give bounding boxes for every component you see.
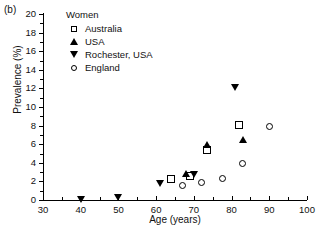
y-tick-major bbox=[39, 107, 43, 108]
legend-item-australia: Australia bbox=[66, 22, 153, 35]
y-tick-minor bbox=[40, 61, 43, 62]
y-tick-label: 12 bbox=[14, 82, 36, 93]
data-point bbox=[179, 182, 186, 189]
y-tick-minor bbox=[40, 79, 43, 80]
x-tick-minor bbox=[250, 197, 251, 200]
x-tick-label: 100 bbox=[295, 204, 319, 215]
x-tick-minor bbox=[288, 197, 289, 200]
legend-items: AustraliaUSARochester, USAEngland bbox=[66, 22, 153, 74]
y-tick-major bbox=[39, 163, 43, 164]
x-tick-label: 50 bbox=[106, 204, 130, 215]
x-tick-major bbox=[307, 196, 308, 200]
x-axis-label: Age (years) bbox=[43, 214, 307, 225]
y-tick-label: 14 bbox=[14, 64, 36, 75]
data-point bbox=[231, 84, 239, 91]
y-tick-minor bbox=[40, 98, 43, 99]
legend-item-rochester-usa: Rochester, USA bbox=[66, 48, 153, 61]
y-tick-major bbox=[39, 126, 43, 127]
data-point bbox=[156, 180, 164, 187]
y-tick-minor bbox=[40, 172, 43, 173]
x-tick-label: 60 bbox=[144, 204, 168, 215]
legend: Women AustraliaUSARochester, USAEngland bbox=[66, 8, 153, 74]
y-tick-major bbox=[39, 200, 43, 201]
y-tick-label: 20 bbox=[14, 8, 36, 19]
legend-title: Women bbox=[66, 8, 153, 21]
x-tick-major bbox=[232, 196, 233, 200]
y-tick-label: 16 bbox=[14, 45, 36, 56]
y-tick-minor bbox=[40, 42, 43, 43]
legend-item-label: England bbox=[82, 61, 120, 74]
legend-item-usa: USA bbox=[66, 35, 153, 48]
open-square-icon bbox=[66, 26, 82, 32]
data-point bbox=[167, 175, 175, 183]
data-point bbox=[198, 179, 205, 186]
y-tick-label: 6 bbox=[14, 138, 36, 149]
data-point bbox=[239, 160, 246, 167]
open-circle-icon bbox=[66, 65, 82, 71]
x-tick-label: 30 bbox=[31, 204, 55, 215]
y-tick-minor bbox=[40, 116, 43, 117]
y-tick-label: 18 bbox=[14, 27, 36, 38]
data-point bbox=[239, 136, 247, 143]
y-tick-label: 2 bbox=[14, 175, 36, 186]
y-tick-major bbox=[39, 70, 43, 71]
x-tick-major bbox=[43, 196, 44, 200]
x-tick-minor bbox=[62, 197, 63, 200]
y-tick-label: 4 bbox=[14, 157, 36, 168]
x-tick-minor bbox=[175, 197, 176, 200]
y-tick-major bbox=[39, 14, 43, 15]
y-tick-minor bbox=[40, 23, 43, 24]
legend-item-label: Australia bbox=[82, 22, 122, 35]
y-tick-minor bbox=[40, 135, 43, 136]
x-tick-label: 40 bbox=[69, 204, 93, 215]
y-tick-major bbox=[39, 181, 43, 182]
y-tick-major bbox=[39, 88, 43, 89]
x-tick-label: 90 bbox=[257, 204, 281, 215]
y-tick-major bbox=[39, 144, 43, 145]
x-tick-label: 70 bbox=[182, 204, 206, 215]
data-point bbox=[203, 141, 211, 148]
filled-triangle-up-icon bbox=[66, 38, 82, 45]
x-tick-minor bbox=[100, 197, 101, 200]
y-tick-minor bbox=[40, 154, 43, 155]
data-point bbox=[77, 196, 85, 203]
x-tick-label: 80 bbox=[220, 204, 244, 215]
data-point bbox=[190, 171, 198, 178]
y-tick-label: 10 bbox=[14, 101, 36, 112]
data-point bbox=[266, 123, 273, 130]
x-tick-major bbox=[156, 196, 157, 200]
filled-triangle-down-icon bbox=[66, 51, 82, 58]
y-tick-major bbox=[39, 33, 43, 34]
data-point bbox=[235, 121, 243, 129]
data-point bbox=[219, 175, 226, 182]
y-tick-label: 8 bbox=[14, 120, 36, 131]
x-tick-major bbox=[269, 196, 270, 200]
legend-item-label: USA bbox=[82, 35, 105, 48]
y-axis-line bbox=[43, 13, 44, 201]
legend-item-england: England bbox=[66, 61, 153, 74]
y-tick-minor bbox=[40, 191, 43, 192]
x-tick-minor bbox=[137, 197, 138, 200]
legend-item-label: Rochester, USA bbox=[82, 48, 153, 61]
x-tick-minor bbox=[213, 197, 214, 200]
y-tick-major bbox=[39, 51, 43, 52]
data-point bbox=[114, 194, 122, 201]
figure-panel-b: (b) Prevalence (%) Age (years) 024681012… bbox=[0, 0, 319, 232]
x-tick-major bbox=[194, 196, 195, 200]
